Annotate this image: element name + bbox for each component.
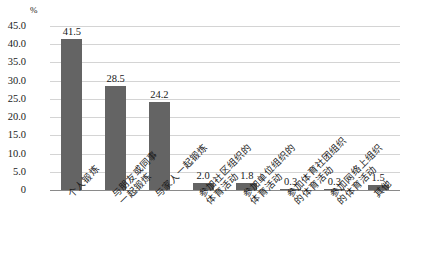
y-axis-tick-label: 20.0 (0, 112, 26, 122)
y-axis-tick-label: 25.0 (0, 94, 26, 104)
bar-chart: % 45.040.035.030.025.020.015.010.05.0041… (0, 0, 422, 271)
y-axis-unit-label: % (30, 5, 38, 15)
bar-value-label: 28.5 (94, 73, 138, 84)
gridline (50, 99, 400, 100)
bar-value-label: 24.2 (137, 89, 181, 100)
y-axis-tick-label: 35.0 (0, 57, 26, 67)
y-axis-tick-label: 0 (0, 185, 26, 195)
y-axis-tick-label: 5.0 (0, 167, 26, 177)
y-axis-tick-label: 15.0 (0, 130, 26, 140)
gridline (50, 26, 400, 27)
gridline (50, 135, 400, 136)
bar (61, 39, 82, 190)
gridline (50, 44, 400, 45)
y-axis-tick-label: 45.0 (0, 21, 26, 31)
x-axis-category-labels: 个人锻炼与朋友或同事一起锻炼与家人一起锻炼参加社区组织的体育活动参加单位组织的体… (50, 192, 400, 271)
y-axis-tick-label: 40.0 (0, 39, 26, 49)
gridline (50, 117, 400, 118)
y-axis-tick-label: 10.0 (0, 149, 26, 159)
y-axis-tick-label: 30.0 (0, 76, 26, 86)
bar-value-label: 41.5 (50, 26, 94, 37)
gridline (50, 62, 400, 63)
bar (105, 86, 126, 190)
